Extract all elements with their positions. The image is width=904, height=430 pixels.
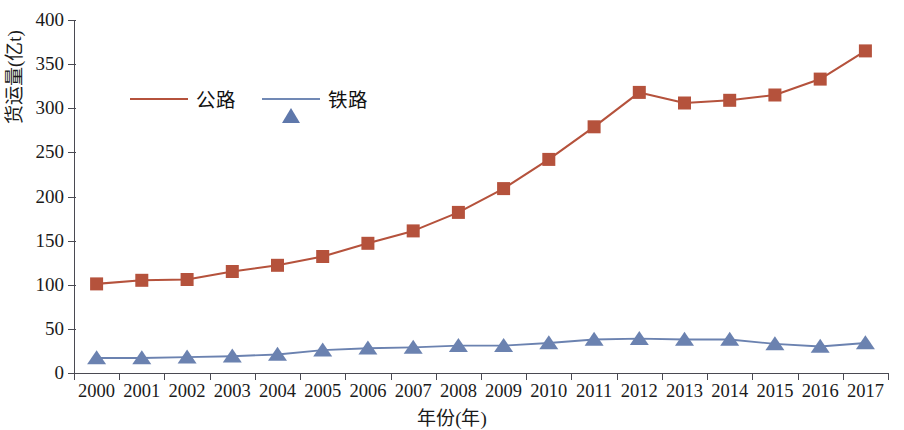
blue-triangle-marker-icon bbox=[282, 91, 300, 109]
data-point-marker-triangle[interactable] bbox=[856, 335, 875, 349]
legend-item-railway[interactable]: 铁路 bbox=[262, 84, 368, 113]
data-point-marker-square[interactable] bbox=[633, 86, 646, 99]
data-point-marker-square[interactable] bbox=[452, 206, 465, 219]
data-point-marker-square[interactable] bbox=[361, 237, 374, 250]
data-point-marker-square[interactable] bbox=[678, 97, 691, 110]
data-point-marker-square[interactable] bbox=[859, 44, 872, 57]
legend-item-highway[interactable]: 公路 bbox=[130, 84, 236, 113]
data-point-marker-square[interactable] bbox=[814, 73, 827, 86]
x-axis-title: 年份(年) bbox=[0, 403, 904, 430]
data-point-marker-square[interactable] bbox=[588, 120, 601, 133]
data-point-marker-square[interactable] bbox=[316, 250, 329, 263]
data-point-marker-square[interactable] bbox=[271, 259, 284, 272]
data-point-marker-square[interactable] bbox=[497, 182, 510, 195]
data-point-marker-square[interactable] bbox=[768, 89, 781, 102]
data-point-marker-square[interactable] bbox=[181, 273, 194, 286]
legend-label-railway: 铁路 bbox=[328, 84, 368, 113]
series-railway bbox=[87, 331, 875, 364]
series-highway bbox=[90, 44, 872, 290]
series-line bbox=[97, 339, 866, 358]
data-point-marker-square[interactable] bbox=[542, 153, 555, 166]
legend-line-highway bbox=[130, 98, 188, 100]
data-point-marker-square[interactable] bbox=[135, 274, 148, 287]
chart-legend: 公路 铁路 bbox=[130, 84, 368, 113]
data-point-marker-square[interactable] bbox=[226, 265, 239, 278]
legend-label-highway: 公路 bbox=[196, 84, 236, 113]
data-point-marker-square[interactable] bbox=[90, 277, 103, 290]
legend-line-railway bbox=[262, 98, 320, 100]
data-point-marker-square[interactable] bbox=[407, 224, 420, 237]
data-point-marker-square[interactable] bbox=[723, 94, 736, 107]
